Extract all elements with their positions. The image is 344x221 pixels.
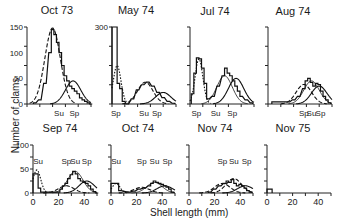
- svg-text:Su: Su: [54, 109, 64, 118]
- svg-text:40: 40: [235, 197, 245, 207]
- panel-oct73: 050100150SuSp: [10, 23, 93, 118]
- panel-aug74: SpSuSp: [265, 27, 332, 118]
- svg-text:20: 20: [210, 197, 220, 207]
- panel-jul74: SpSuSp: [187, 27, 254, 118]
- svg-text:Sp: Sp: [217, 157, 227, 166]
- svg-text:150: 150: [10, 23, 24, 32]
- svg-text:0: 0: [25, 189, 30, 198]
- svg-text:Su: Su: [33, 157, 43, 166]
- svg-text:Su: Su: [211, 109, 221, 118]
- svg-text:0: 0: [30, 197, 35, 207]
- svg-text:Sp: Sp: [192, 109, 202, 118]
- svg-text:20: 20: [288, 197, 298, 207]
- svg-text:0: 0: [186, 197, 191, 207]
- svg-text:Sp: Sp: [227, 109, 237, 118]
- panel-nov74: 02040SpSuSp: [186, 145, 253, 207]
- svg-text:Sp: Sp: [69, 109, 79, 118]
- svg-text:20: 20: [54, 197, 64, 207]
- svg-text:40: 40: [157, 197, 167, 207]
- svg-text:Sp: Sp: [82, 157, 92, 166]
- svg-text:Su: Su: [229, 157, 239, 166]
- panel-oct74: 02040SuSpSuSp: [108, 145, 175, 207]
- svg-text:Sp: Sp: [242, 157, 252, 166]
- figure: Oct 73 May 74 Jul 74 Aug 74 Sep 74 Oct 7…: [0, 0, 344, 221]
- svg-text:0: 0: [108, 197, 113, 207]
- svg-text:Sp: Sp: [316, 109, 326, 118]
- svg-text:50: 50: [20, 165, 29, 174]
- svg-text:100: 100: [16, 141, 30, 150]
- svg-text:Sp: Sp: [162, 157, 172, 166]
- panel-nov75: 02040: [264, 145, 331, 207]
- svg-text:Sp: Sp: [137, 157, 147, 166]
- svg-text:40: 40: [313, 197, 323, 207]
- svg-text:Su: Su: [111, 157, 121, 166]
- svg-text:100: 100: [10, 49, 24, 58]
- svg-text:20: 20: [132, 197, 142, 207]
- panel-sep74: 05010002040SuSpSuSp: [16, 141, 99, 207]
- plot-area: 050100150SuSp300SpSuSpSpSuSpSpSuSp050100…: [0, 0, 344, 221]
- svg-text:50: 50: [14, 74, 23, 83]
- svg-text:Su: Su: [70, 157, 80, 166]
- svg-text:0: 0: [264, 197, 269, 207]
- svg-text:40: 40: [79, 197, 89, 207]
- svg-text:Su: Su: [150, 157, 160, 166]
- svg-text:Sp: Sp: [152, 109, 162, 118]
- svg-text:Sp: Sp: [111, 109, 121, 118]
- panel-may74: 300SpSuSp: [95, 23, 176, 118]
- svg-text:0: 0: [19, 100, 24, 109]
- svg-text:300: 300: [95, 23, 109, 32]
- svg-text:Su: Su: [139, 109, 149, 118]
